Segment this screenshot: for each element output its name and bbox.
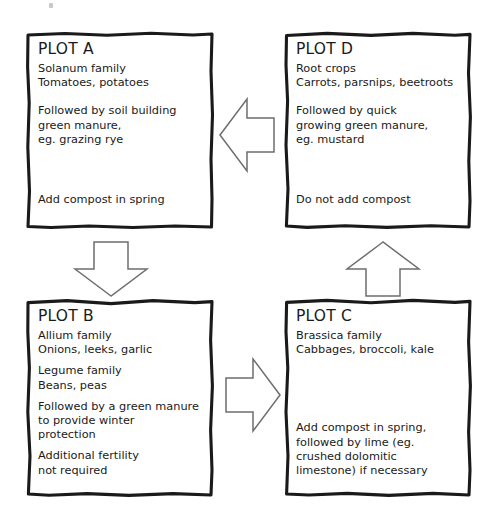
compost-note: Do not add compost [296, 193, 465, 207]
spacer [38, 90, 207, 104]
compost-note: Add compost in spring [38, 193, 207, 207]
spacer [38, 147, 207, 193]
plot-title: PLOT C [296, 307, 465, 326]
crop-list-secondary: Beans, peas [38, 379, 207, 393]
crop-list: Carrots, parsnips, beetroots [296, 76, 465, 90]
plot-card-b: PLOT B Allium family Onions, leeks, garl… [25, 298, 215, 498]
crop-list: Tomatoes, potatoes [38, 76, 207, 90]
plot-title: PLOT B [38, 307, 207, 326]
plot-card-d: PLOT D Root crops Carrots, parsnips, bee… [283, 31, 473, 230]
compost-note: Additional fertility not required [38, 449, 207, 477]
compost-note: Add compost in spring, followed by lime … [296, 421, 465, 478]
spacer [296, 357, 465, 389]
plot-card-a: PLOT A Solanum family Tomatoes, potatoes… [25, 31, 215, 230]
scan-artifact-speck [49, 3, 53, 8]
spacer [296, 147, 465, 193]
crop-list: Onions, leeks, garlic [38, 343, 207, 357]
arrow-down-icon [72, 240, 150, 298]
arrow-up-icon [344, 240, 422, 298]
plot-title: PLOT A [38, 40, 207, 59]
crop-list: Cabbages, broccoli, kale [296, 343, 465, 357]
plot-title: PLOT D [296, 40, 465, 59]
arrow-left-icon [218, 96, 276, 174]
crop-family-label: Brassica family [296, 329, 465, 343]
follow-on-note: Followed by soil building green manure, … [38, 104, 207, 147]
crop-family-label: Allium family [38, 329, 207, 343]
arrow-right-icon [224, 356, 282, 434]
plot-card-c: PLOT C Brassica family Cabbages, broccol… [283, 298, 473, 498]
crop-family-label: Root crops [296, 62, 465, 76]
spacer [38, 393, 207, 400]
crop-family-label: Solanum family [38, 62, 207, 76]
crop-family-label-secondary: Legume family [38, 364, 207, 378]
spacer [296, 90, 465, 104]
follow-on-note: Followed by quick growing green manure, … [296, 104, 465, 147]
spacer [296, 389, 465, 421]
crop-rotation-diagram: PLOT A Solanum family Tomatoes, potatoes… [0, 0, 496, 526]
spacer [38, 442, 207, 449]
follow-on-note: Followed by a green manure to provide wi… [38, 400, 207, 443]
spacer [38, 357, 207, 364]
